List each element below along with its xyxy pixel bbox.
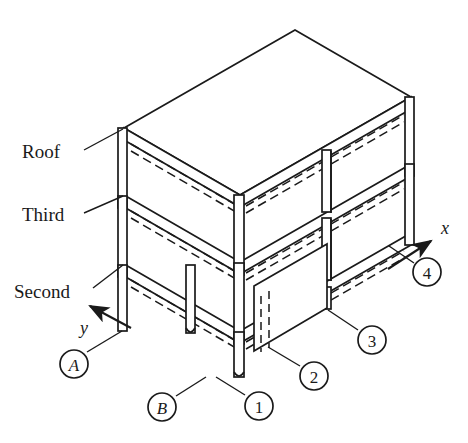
grid-label-B: B xyxy=(157,399,168,418)
y-axis-label: y xyxy=(78,318,88,338)
column-front-mid xyxy=(234,195,244,377)
grid-leader-1 xyxy=(216,377,245,395)
third-front-band xyxy=(124,195,240,274)
figure-container: Roof Third Second x y xyxy=(0,0,468,443)
grid-label-2: 2 xyxy=(310,368,319,387)
grid-leader-2 xyxy=(268,347,300,366)
grid-label-4: 4 xyxy=(423,264,432,283)
column-rear-left-shaft xyxy=(186,265,195,333)
column-front-mid-story1 xyxy=(234,332,244,377)
column-right-end xyxy=(405,97,414,245)
level-label-second: Second xyxy=(14,281,70,302)
grid-marker-4: 4 xyxy=(413,258,441,286)
second-hidden-girder-left-2 xyxy=(131,287,236,348)
second-hidden-girder-left xyxy=(131,280,236,341)
grid-leader-B xyxy=(176,377,206,396)
grid-marker-1: 1 xyxy=(245,392,273,420)
level-label-roof: Roof xyxy=(22,141,61,162)
column-right-end-story2 xyxy=(405,164,414,245)
grid-label-3: 3 xyxy=(368,332,377,351)
third-hidden-girder-left xyxy=(131,211,236,272)
x-axis-label: x xyxy=(440,218,449,238)
roof-slab xyxy=(124,30,411,213)
grid-leader-3 xyxy=(328,310,358,330)
grid-marker-B: B xyxy=(148,393,176,421)
column-front-left xyxy=(118,128,127,331)
grid-marker-3: 3 xyxy=(358,326,386,354)
roof-top-face xyxy=(124,30,411,195)
grid-label-A: A xyxy=(68,356,80,375)
column-back-right-upper xyxy=(322,150,331,212)
third-hidden-girder-left-2 xyxy=(131,218,236,279)
grid-marker-A: A xyxy=(60,350,88,378)
grid-leader-A xyxy=(87,331,122,352)
grid-label-1: 1 xyxy=(255,398,264,417)
isometric-frame-diagram: Roof Third Second x y xyxy=(0,0,468,443)
column-rear-left-ground xyxy=(186,265,195,333)
grid-marker-2: 2 xyxy=(300,362,328,390)
second-front-band xyxy=(124,264,240,343)
level-label-third: Third xyxy=(22,204,65,225)
